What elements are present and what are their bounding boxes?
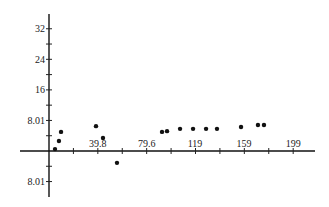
tick-labels: 39.879.61191591993224168.018.01 <box>28 23 301 187</box>
data-point <box>115 161 119 165</box>
data-point <box>215 127 219 131</box>
data-point <box>191 127 195 131</box>
data-point <box>101 136 105 140</box>
data-point <box>262 123 266 127</box>
x-tick-label: 199 <box>286 138 301 149</box>
data-point <box>94 124 98 128</box>
x-tick-label: 119 <box>188 138 203 149</box>
data-point <box>239 125 243 129</box>
y-tick-label: 32 <box>35 23 45 34</box>
data-point <box>57 139 61 143</box>
axes <box>20 14 315 197</box>
data-point <box>178 127 182 131</box>
y-tick-label: 24 <box>35 54 45 65</box>
y-tick-label: 8.01 <box>28 115 46 126</box>
x-tick-label: 159 <box>237 138 252 149</box>
data-point <box>59 130 63 134</box>
data-point <box>160 130 164 134</box>
ticks <box>46 29 293 182</box>
data-point <box>165 129 169 133</box>
data-point <box>53 147 57 151</box>
data-points <box>53 123 266 165</box>
x-tick-label: 79.6 <box>138 138 156 149</box>
data-point <box>256 123 260 127</box>
y-tick-label: 8.01 <box>28 176 46 187</box>
y-tick-label: 16 <box>35 84 45 95</box>
scatter-chart: 39.879.61191591993224168.018.01 <box>0 0 329 207</box>
data-point <box>204 127 208 131</box>
